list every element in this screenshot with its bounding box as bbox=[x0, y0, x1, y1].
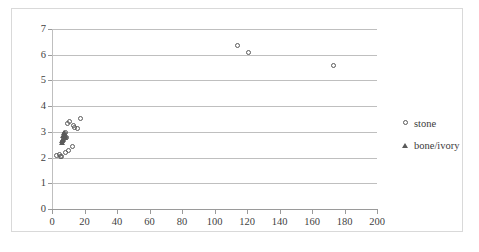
x-axis-tick-label: 200 bbox=[362, 216, 392, 227]
y-axis-tick-label: 5 bbox=[22, 75, 46, 85]
triangle-marker-icon bbox=[400, 139, 412, 151]
x-axis-tick-label: 0 bbox=[37, 216, 67, 227]
x-axis-tick-label: 160 bbox=[297, 216, 327, 227]
x-axis-tick-label: 120 bbox=[232, 216, 262, 227]
plot-area bbox=[52, 29, 377, 209]
y-axis-tick-label: 1 bbox=[22, 178, 46, 188]
x-axis-tick-label: 20 bbox=[70, 216, 100, 227]
x-axis-tick-label: 40 bbox=[102, 216, 132, 227]
chart-frame: 01234567 020406080100120140160180200 sto… bbox=[11, 8, 463, 232]
x-axis-tick bbox=[345, 210, 346, 214]
data-point-stone bbox=[75, 126, 80, 131]
legend-label-bone-ivory: bone/ivory bbox=[412, 140, 460, 151]
legend-item-stone: stone bbox=[400, 112, 479, 134]
data-point-bone-ivory bbox=[62, 133, 68, 138]
x-axis-tick bbox=[215, 210, 216, 214]
x-axis-tick bbox=[377, 210, 378, 214]
x-axis-tick bbox=[312, 210, 313, 214]
chart-legend: stone bone/ivory bbox=[400, 112, 479, 156]
x-axis-tick bbox=[52, 210, 53, 214]
x-axis-tick bbox=[150, 210, 151, 214]
x-axis-tick-label: 80 bbox=[167, 216, 197, 227]
legend-item-bone-ivory: bone/ivory bbox=[400, 134, 479, 156]
chart-screenshot: 01234567 020406080100120140160180200 sto… bbox=[0, 0, 479, 252]
data-point-stone bbox=[235, 43, 240, 48]
y-axis-tick-label: 7 bbox=[22, 24, 46, 34]
legend-label-stone: stone bbox=[412, 118, 436, 129]
y-axis-tick-label: 0 bbox=[22, 204, 46, 214]
x-axis-tick-label: 100 bbox=[200, 216, 230, 227]
x-axis-tick bbox=[182, 210, 183, 214]
y-axis-tick-label: 4 bbox=[22, 101, 46, 111]
data-point-stone bbox=[70, 144, 75, 149]
y-axis-tick-label: 3 bbox=[22, 127, 46, 137]
y-axis-tick-label: 2 bbox=[22, 153, 46, 163]
data-point-stone bbox=[246, 50, 251, 55]
y-axis-tick-label: 6 bbox=[22, 50, 46, 60]
x-axis-tick bbox=[85, 210, 86, 214]
circle-marker-icon bbox=[400, 117, 412, 129]
x-axis-tick bbox=[280, 210, 281, 214]
x-axis-tick-label: 60 bbox=[135, 216, 165, 227]
x-axis-tick-label: 140 bbox=[265, 216, 295, 227]
data-point-stone bbox=[331, 63, 336, 68]
data-point-stone bbox=[66, 148, 71, 153]
x-axis-tick bbox=[247, 210, 248, 214]
x-axis-tick-label: 180 bbox=[330, 216, 360, 227]
data-point-stone bbox=[78, 116, 83, 121]
x-axis-tick bbox=[117, 210, 118, 214]
